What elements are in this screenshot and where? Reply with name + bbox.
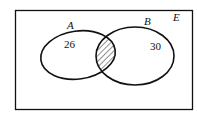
universal-set-label: E (172, 11, 180, 23)
set-a-label: A (66, 19, 74, 31)
venn-diagram: A B E 26 30 (0, 0, 197, 119)
set-b-label: B (144, 15, 151, 27)
set-b-only-value: 30 (150, 40, 162, 52)
set-a-only-value: 26 (64, 38, 76, 50)
